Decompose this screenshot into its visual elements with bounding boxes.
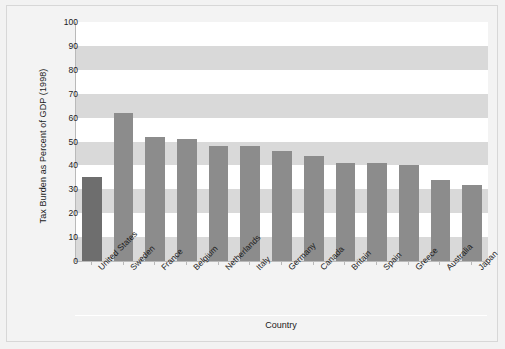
y-tick-label: 40 — [52, 160, 78, 170]
x-tick-label: Canada — [318, 265, 325, 272]
x-tick-label: Britain — [349, 265, 356, 272]
y-tick-label: 10 — [52, 232, 78, 242]
y-tick-label: 30 — [52, 184, 78, 194]
x-tick-label: Japan — [476, 265, 483, 272]
y-tick-label: 60 — [52, 113, 78, 123]
y-tick-label: 70 — [52, 89, 78, 99]
x-tick-label: Spain — [381, 265, 388, 272]
y-tick-label: 20 — [52, 208, 78, 218]
x-axis-category-labels: United StatesSwedenFranceBelgiumNetherla… — [75, 265, 487, 313]
figure-frame: Tax Burden as Percent of GDP (1998) 0102… — [6, 5, 498, 342]
figure: Tax Burden as Percent of GDP (1998) 0102… — [0, 0, 505, 349]
y-tick-label: 90 — [52, 41, 78, 51]
x-tick-label: Netherlands — [223, 265, 230, 272]
x-axis-title: Country — [75, 320, 487, 330]
x-tick-label: United States — [96, 265, 103, 272]
y-tick-label: 50 — [52, 137, 78, 147]
x-tick-label: Germany — [286, 265, 293, 272]
y-tick-label: 100 — [52, 17, 78, 27]
y-axis-ticks: 0102030405060708090100 — [7, 22, 505, 261]
x-tick-label: Greece — [413, 265, 420, 272]
y-tick-label: 80 — [52, 65, 78, 75]
x-tick-label: Australia — [444, 265, 451, 272]
x-tick-label: France — [159, 265, 166, 272]
x-tick-label: Belgium — [191, 265, 198, 272]
x-tick-label: Italy — [254, 265, 261, 272]
x-tick-label: Sweden — [128, 265, 135, 272]
x-axis-title-box: Country — [75, 315, 487, 336]
